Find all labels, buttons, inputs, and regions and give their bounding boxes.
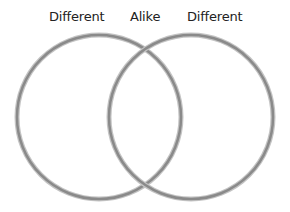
right-circle — [109, 35, 273, 199]
venn-diagram — [0, 0, 290, 212]
left-circle — [17, 35, 181, 199]
